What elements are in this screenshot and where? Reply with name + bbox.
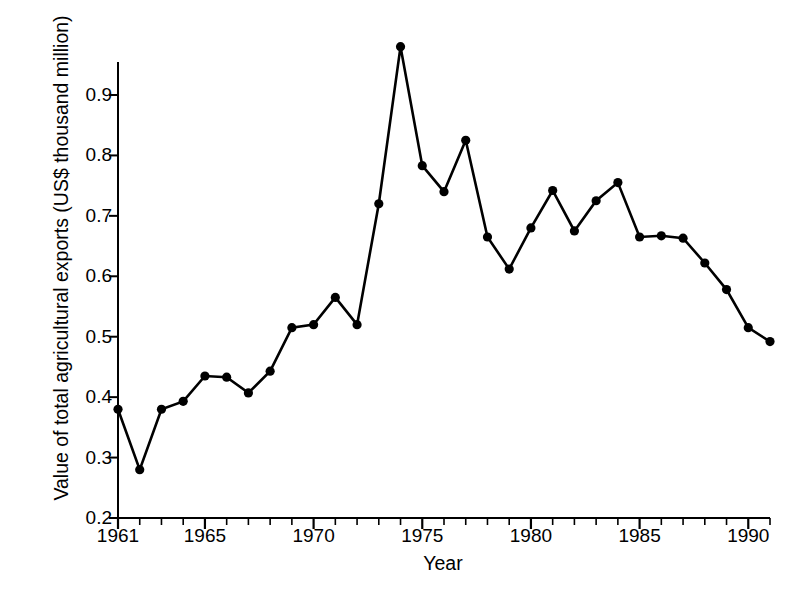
data-point-marker [505,264,514,273]
data-point-marker [592,196,601,205]
data-point-marker [418,161,427,170]
data-point-marker [765,337,774,346]
data-point-marker [309,320,318,329]
data-point-marker [700,258,709,267]
data-point-marker [548,186,557,195]
y-axis-ticks [109,95,118,518]
data-point-marker [331,293,340,302]
data-point-marker [483,232,492,241]
x-axis-title: Year [118,552,768,575]
x-axis-tick-label: 1980 [496,524,566,548]
data-point-marker [396,42,405,51]
x-axis-tick-label: 1990 [713,524,783,548]
data-point-marker [244,388,253,397]
line-chart-plot [0,0,807,589]
axis-lines [118,62,770,518]
data-point-marker [113,405,122,414]
data-point-marker [613,178,622,187]
data-point-marker [266,367,275,376]
data-point-marker [287,323,296,332]
data-point-marker [461,136,470,145]
data-point-marker [222,373,231,382]
data-point-marker [722,285,731,294]
data-series-line [118,47,770,470]
data-point-marker [657,231,666,240]
x-axis-tick-label: 1961 [83,524,153,548]
x-axis-tick-label: 1985 [605,524,675,548]
chart-figure: Value of total agricultural exports (US$… [0,0,807,589]
data-point-marker [374,199,383,208]
data-point-marker [200,371,209,380]
data-point-marker [635,232,644,241]
data-point-marker [135,465,144,474]
data-point-marker [678,234,687,243]
data-point-marker [179,397,188,406]
data-point-marker [352,320,361,329]
data-point-marker [439,187,448,196]
data-point-marker [744,323,753,332]
data-point-marker [157,405,166,414]
data-point-marker [526,223,535,232]
x-axis-tick-label: 1975 [387,524,457,548]
x-axis-tick-label: 1965 [170,524,240,548]
data-series-markers [113,42,774,474]
data-point-marker [570,226,579,235]
x-axis-tick-label: 1970 [279,524,349,548]
x-axis-tick-labels: 1961196519701975198019851990 [0,524,807,554]
